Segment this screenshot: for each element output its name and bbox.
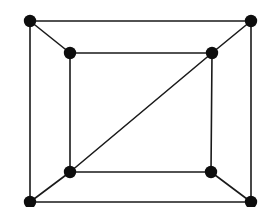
graph-edge-inner-right (211, 53, 212, 172)
figure-background (0, 0, 269, 207)
graph-canvas (0, 0, 269, 207)
graph-figure (0, 0, 269, 207)
graph-vertex-inner-top-left (64, 47, 76, 59)
graph-vertex-outer-top-right (245, 15, 257, 27)
graph-vertex-outer-top-left (24, 15, 36, 27)
graph-vertex-inner-bottom-right (205, 166, 217, 178)
graph-vertex-inner-bottom-left (64, 166, 76, 178)
graph-vertex-inner-top-right (206, 47, 218, 59)
